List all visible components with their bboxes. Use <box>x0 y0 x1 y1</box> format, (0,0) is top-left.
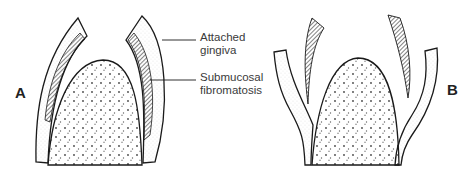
fibromatosis-left-b <box>305 18 324 104</box>
panel-b-drawing <box>274 15 438 165</box>
bone-ridge-b <box>312 58 399 165</box>
fibromatosis-right-b <box>388 15 410 98</box>
panel-a-drawing <box>36 16 196 165</box>
callout-submucosal-fibromatosis: Submucosal fibromatosis <box>200 71 263 97</box>
callout-submucosal-fibromatosis-line1: Submucosal <box>200 71 263 84</box>
callout-attached-gingiva-line1: Attached <box>200 31 245 44</box>
callout-attached-gingiva: Attached gingiva <box>200 31 245 57</box>
callout-submucosal-fibromatosis-line2: fibromatosis <box>200 84 263 97</box>
figure: A B Attached gingiva Submucosal fibromat… <box>0 0 469 173</box>
callout-attached-gingiva-line2: gingiva <box>200 44 245 57</box>
panel-label-b: B <box>447 81 458 98</box>
panel-label-a: A <box>15 84 26 101</box>
gingiva-right-b <box>395 48 438 165</box>
